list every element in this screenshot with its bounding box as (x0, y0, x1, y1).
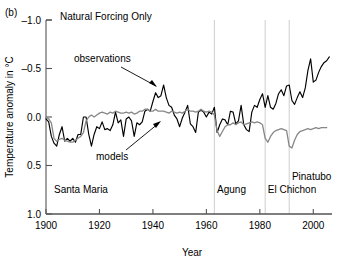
models-label: models (96, 151, 128, 162)
volcano-label-pinatubo: Pinatubo (292, 171, 332, 182)
y-tick-label: 0.0 (27, 112, 41, 123)
x-axis-ticks: 190019201940196019802000 (35, 209, 325, 231)
panel-label: (b) (5, 7, 17, 18)
volcano-labels: Santa MariaAgungEl ChichonPinatubo (54, 171, 332, 195)
models-annotation: models (96, 121, 161, 162)
observations-arrow-head (149, 80, 157, 87)
x-tick-label: 1920 (88, 220, 111, 231)
x-tick-label: 1960 (195, 220, 218, 231)
y-tick-label: 0.5 (27, 160, 41, 171)
x-axis-title: Year (182, 247, 203, 258)
x-tick-label: 1940 (142, 220, 165, 231)
models-arrow-line (126, 123, 159, 150)
y-tick-label: 1.0 (27, 209, 41, 220)
x-tick-label: 1900 (35, 220, 58, 231)
y-axis-title: Temperature anomaly in °C (4, 56, 15, 177)
temperature-anomaly-chart: (b) Natural Forcing Only 1.00.50.0–0.5–1… (0, 0, 343, 262)
chart-inner-title: Natural Forcing Only (60, 11, 152, 22)
volcano-label-el-chichon: El Chichon (268, 184, 316, 195)
x-tick-label: 1980 (249, 220, 272, 231)
volcano-label-agung: Agung (217, 184, 246, 195)
figure-panel: (b) Natural Forcing Only 1.00.50.0–0.5–1… (0, 0, 343, 262)
x-tick-label: 2000 (302, 220, 325, 231)
observations-label: observations (74, 53, 131, 64)
y-axis-ticks: 1.00.50.0–0.5–1.0 (22, 15, 52, 220)
y-tick-label: –0.5 (22, 63, 42, 74)
observations-annotation: observations (74, 53, 157, 87)
y-tick-label: –1.0 (22, 15, 42, 26)
volcano-label-santa-maria: Santa Maria (54, 184, 108, 195)
data-series-group (46, 57, 329, 148)
